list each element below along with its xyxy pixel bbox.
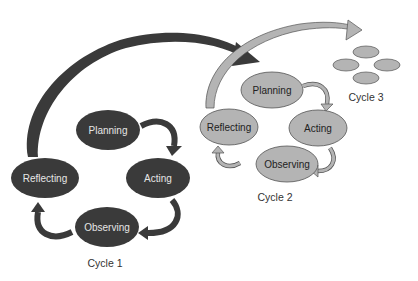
cycle1-stage-observing: Observing [75,207,139,247]
cycle-2: Planning Acting Observing Reflecting Cyc… [200,72,347,203]
stage-label: Acting [144,173,172,184]
stage-label: Observing [84,222,130,233]
cycle2-stage-acting: Acting [289,110,347,146]
cycle2-arrow-planning-to-acting [303,84,333,111]
stage-label: Acting [304,123,332,134]
stage-label: Planning [253,85,292,96]
cycle1-arrow-planning-to-acting [141,122,182,156]
stage-label: Observing [264,159,310,170]
cycle-2-caption: Cycle 2 [257,191,292,203]
cycle2-arrow-observing-to-reflecting [212,146,240,166]
stage-label: Reflecting [23,173,67,184]
cycle2-stage-reflecting: Reflecting [200,109,258,145]
cycle2-stage-observing: Observing [256,146,318,182]
cycle1-arrow-observing-to-reflecting [31,202,72,236]
cycle1-stage-reflecting: Reflecting [11,158,79,198]
cycle-3-caption: Cycle 3 [348,91,383,103]
cycle3-stage-right [374,59,400,71]
cycle1-stage-acting: Acting [126,158,190,198]
cycle3-stage-bottom [353,72,379,84]
cycle3-stage-top [353,46,379,58]
cycle-3: Cycle 3 [333,46,400,103]
stage-label: Planning [89,125,128,136]
cycle3-stage-left [333,59,359,71]
action-research-spiral-diagram: Planning Acting Observing Reflecting Cyc… [0,0,418,281]
cycle-1-caption: Cycle 1 [87,257,122,269]
cycle1-stage-planning: Planning [76,110,140,150]
stage-label: Reflecting [207,122,251,133]
cycle2-stage-planning: Planning [241,72,303,108]
cycle1-arrow-acting-to-observing [138,200,178,240]
